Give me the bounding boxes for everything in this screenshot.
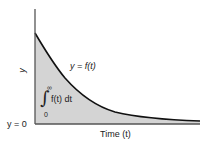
integral-lower-limit: 0 — [44, 111, 48, 118]
integral-sign: ∫ — [40, 89, 49, 107]
curve-label: y = f(t) — [70, 62, 96, 71]
x-axis-label: Time (t) — [100, 130, 131, 139]
integral-upper-limit: ∞ — [47, 84, 52, 91]
y-axis-label: y — [18, 68, 27, 73]
area-under-curve-diagram — [0, 0, 212, 149]
baseline-label: y = 0 — [7, 120, 27, 129]
integral-expression: ∫ ∞ 0 f(t) dt — [40, 86, 90, 118]
integrand: f(t) dt — [51, 95, 72, 104]
